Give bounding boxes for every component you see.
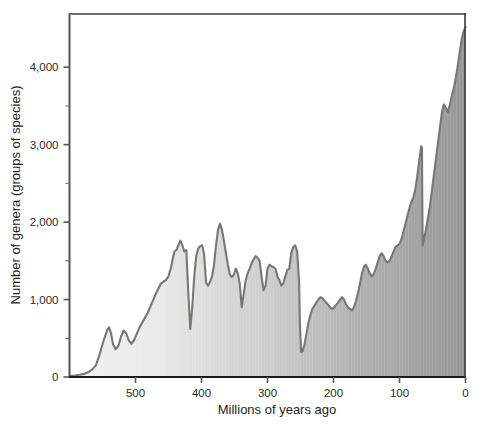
- x-tick-label: 100: [390, 387, 409, 399]
- x-tick-label: 200: [324, 387, 343, 399]
- x-tick-label: 400: [192, 387, 211, 399]
- y-tick-label: 0: [52, 371, 58, 383]
- y-tick-label: 2,000: [30, 216, 59, 228]
- x-axis-title: Millions of years ago: [218, 402, 337, 417]
- x-tick-label: 300: [258, 387, 277, 399]
- chart-figure: 01,0002,0003,0004,000 5004003002001000 M…: [0, 0, 492, 429]
- x-tick-label: 500: [126, 387, 145, 399]
- y-axis-ticks: 01,0002,0003,0004,000: [30, 61, 70, 383]
- x-tick-label: 0: [462, 387, 468, 399]
- y-axis-title: Number of genera (groups of species): [8, 86, 23, 305]
- y-tick-label: 4,000: [30, 61, 59, 73]
- diversity-area-chart: 01,0002,0003,0004,000 5004003002001000 M…: [0, 0, 492, 429]
- y-tick-label: 3,000: [30, 139, 59, 151]
- y-tick-label: 1,000: [30, 294, 59, 306]
- x-axis-ticks: 5004003002001000: [126, 377, 469, 399]
